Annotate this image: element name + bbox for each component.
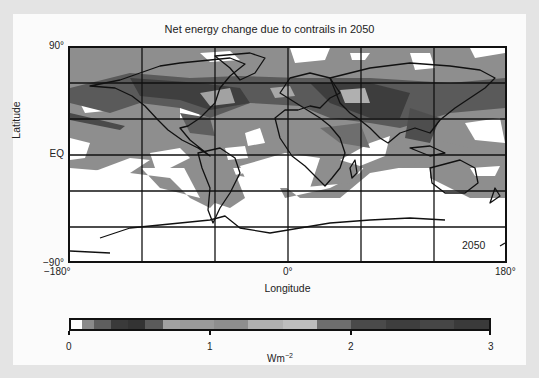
x-tick-minus180: −180° — [44, 266, 71, 277]
colorbar-segment — [94, 320, 111, 329]
colorbar-segment — [283, 320, 317, 329]
unit-exponent: −2 — [285, 352, 293, 359]
colorbar-segment — [145, 320, 162, 329]
colorbar-segment — [454, 320, 488, 329]
x-axis-title: Longitude — [0, 282, 539, 294]
colorbar — [69, 318, 491, 331]
chart-title: Net energy change due to contrails in 20… — [0, 23, 539, 35]
y-axis-title: Latitude — [10, 90, 22, 150]
y-tick-eq: EQ — [24, 148, 64, 159]
colorbar-segment — [111, 320, 128, 329]
x-tick-180: 180° — [495, 266, 516, 277]
colorbar-segment — [128, 320, 145, 329]
colorbar-segment — [82, 320, 93, 329]
colorbar-segment — [420, 320, 454, 329]
x-tick-0: 0° — [283, 266, 293, 277]
colorbar-tick-1 — [209, 331, 211, 335]
colorbar-segment — [163, 320, 180, 329]
colorbar-tick-3 — [489, 331, 491, 335]
colorbar-segment — [351, 320, 385, 329]
colorbar-segment — [214, 320, 248, 329]
colorbar-label-0: 0 — [66, 341, 72, 352]
world-map — [70, 48, 505, 261]
unit-base: Wm — [267, 353, 285, 364]
colorbar-segment — [317, 320, 351, 329]
colorbar-label-1: 1 — [207, 341, 213, 352]
colorbar-segment — [248, 320, 282, 329]
colorbar-segment — [180, 320, 214, 329]
colorbar-label-3: 3 — [488, 341, 494, 352]
colorbar-tick-2 — [350, 331, 352, 335]
colorbar-label-2: 2 — [348, 341, 354, 352]
year-annotation: 2050 — [462, 239, 485, 251]
colorbar-tick-0 — [68, 331, 70, 335]
colorbar-segment — [386, 320, 420, 329]
heatmap-plot-area — [68, 46, 507, 263]
colorbar-unit: Wm−2 — [0, 352, 539, 364]
y-tick-90: 90° — [24, 40, 64, 51]
colorbar-segment — [71, 320, 82, 329]
